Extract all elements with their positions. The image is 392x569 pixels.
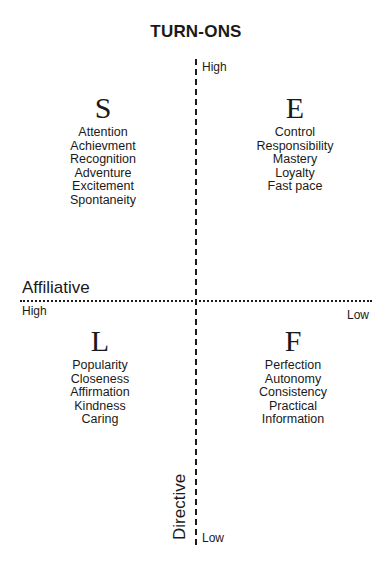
list-item: Caring <box>25 413 175 427</box>
list-item: Affirmation <box>25 386 175 400</box>
list-item: Excitement <box>28 180 178 194</box>
list-item: Closeness <box>25 373 175 387</box>
directive-axis-title: Directive <box>171 474 189 540</box>
list-item: Consistency <box>218 386 368 400</box>
list-item: Control <box>220 126 370 140</box>
list-item: Fast pace <box>220 180 370 194</box>
list-item: Popularity <box>25 359 175 373</box>
quadrant-letter: F <box>218 326 368 356</box>
quadrant-s: S Attention Achievment Recognition Adven… <box>28 93 178 207</box>
affiliative-axis-title: Affiliative <box>22 279 90 297</box>
quadrant-letter: S <box>28 93 178 123</box>
list-item: Practical <box>218 400 368 414</box>
list-item: Achievment <box>28 140 178 154</box>
list-item: Kindness <box>25 400 175 414</box>
quadrant-items: Control Responsibility Mastery Loyalty F… <box>220 126 370 194</box>
affiliative-axis-line <box>20 300 372 302</box>
quadrant-items: Attention Achievment Recognition Adventu… <box>28 126 178 207</box>
list-item: Information <box>218 413 368 427</box>
quadrant-e: E Control Responsibility Mastery Loyalty… <box>220 93 370 194</box>
directive-low-label: Low <box>202 532 224 544</box>
quadrant-f: F Perfection Autonomy Consistency Practi… <box>218 326 368 427</box>
directive-high-label: High <box>202 61 227 73</box>
quadrant-letter: L <box>25 326 175 356</box>
list-item: Autonomy <box>218 373 368 387</box>
list-item: Recognition <box>28 153 178 167</box>
list-item: Responsibility <box>220 140 370 154</box>
list-item: Loyalty <box>220 167 370 181</box>
list-item: Spontaneity <box>28 194 178 208</box>
list-item: Attention <box>28 126 178 140</box>
list-item: Mastery <box>220 153 370 167</box>
quadrant-items: Popularity Closeness Affirmation Kindnes… <box>25 359 175 427</box>
list-item: Perfection <box>218 359 368 373</box>
affiliative-high-label: High <box>22 305 47 317</box>
directive-axis-line <box>195 59 197 545</box>
affiliative-low-label: Low <box>347 309 369 321</box>
quadrant-letter: E <box>220 93 370 123</box>
diagram-title: TURN-ONS <box>0 22 392 42</box>
list-item: Adventure <box>28 167 178 181</box>
quadrant-items: Perfection Autonomy Consistency Practica… <box>218 359 368 427</box>
quadrant-l: L Popularity Closeness Affirmation Kindn… <box>25 326 175 427</box>
